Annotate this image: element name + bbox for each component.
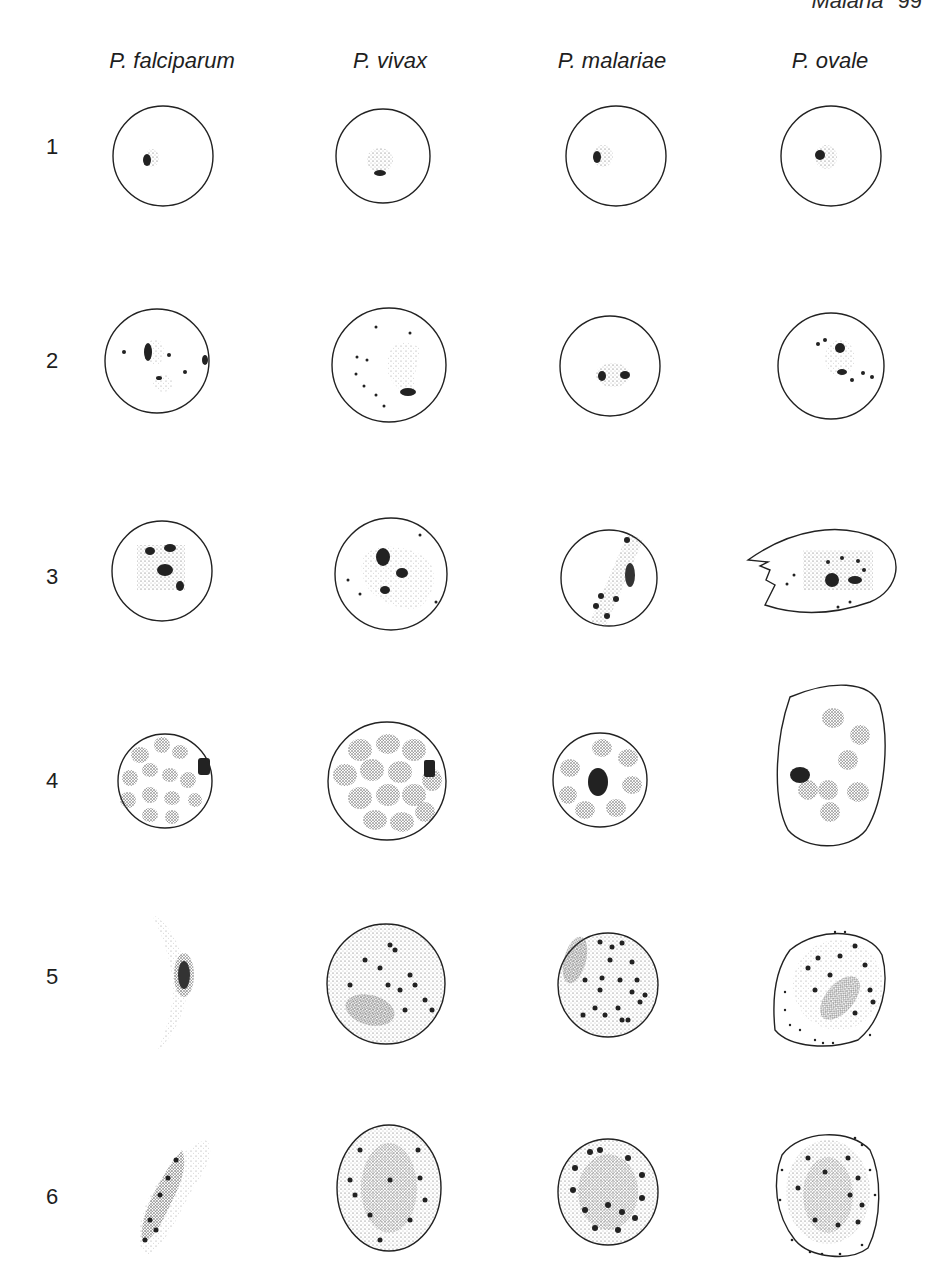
cell-4-ovale: [777, 685, 885, 846]
cell-3-ovale: [748, 530, 896, 613]
cell-1-vivax: [336, 109, 430, 203]
cell-5-malariae: [558, 933, 658, 1037]
cell-2-malariae: [560, 316, 660, 416]
cell-6-vivax: [337, 1125, 441, 1251]
cell-6-falciparum: [139, 1140, 210, 1255]
cell-2-ovale: [778, 313, 884, 419]
cell-5-ovale: [774, 931, 885, 1046]
cell-4-vivax: [328, 722, 446, 840]
cell-1-malariae: [566, 106, 666, 206]
cell-1-falciparum: [113, 106, 213, 206]
cell-2-falciparum: [105, 309, 209, 413]
cell-3-vivax: [335, 518, 447, 630]
cell-6-ovale: [776, 1135, 878, 1257]
cell-3-falciparum: [112, 521, 212, 621]
cell-2-vivax: [332, 308, 446, 422]
cell-5-vivax: [327, 924, 445, 1044]
cell-6-malariae: [558, 1139, 658, 1245]
cell-4-malariae: [553, 733, 647, 827]
cell-3-malariae: [561, 530, 657, 628]
cell-4-falciparum: [118, 734, 212, 828]
cell-1-ovale: [781, 106, 881, 206]
parasite-illustration-plate: [0, 0, 948, 1285]
cell-5-falciparum: [152, 915, 194, 1050]
